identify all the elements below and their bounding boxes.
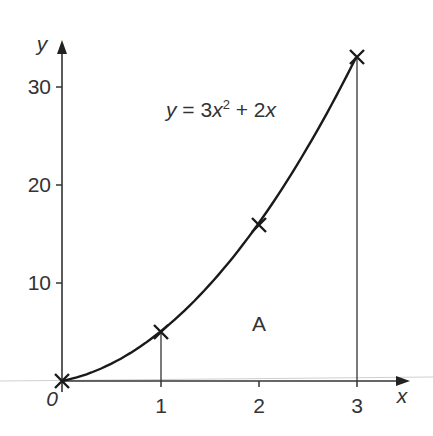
equation-label: y = 3x2 + 2x (164, 97, 277, 121)
region-label: A (252, 312, 266, 335)
eq-plus: + 2 (230, 98, 266, 121)
x-tick-label-1: 1 (155, 394, 167, 417)
eq-mid: = 3 (177, 98, 213, 121)
chart-canvas: y x 30 20 10 0 1 2 3 A y = 3x2 + 2x (0, 0, 433, 436)
cross-marker-2 (252, 218, 266, 232)
y-tick-label-20: 20 (28, 173, 51, 196)
origin-label: 0 (46, 387, 58, 410)
y-axis-arrow-icon (57, 40, 67, 54)
y-tick-label-30: 30 (28, 75, 51, 98)
x-tick-label-3: 3 (351, 394, 363, 417)
eq-sup: 2 (223, 97, 230, 112)
x-tick-label-2: 2 (253, 394, 265, 417)
y-tick-label-10: 10 (28, 271, 51, 294)
x-axis-label: x (396, 384, 409, 407)
eq-x2: x (264, 98, 277, 121)
y-axis-label: y (35, 32, 49, 55)
